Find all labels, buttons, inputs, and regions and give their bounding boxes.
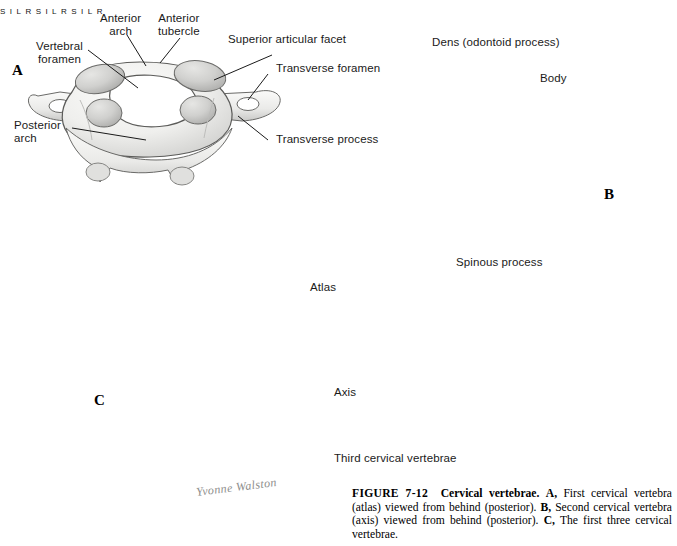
label-spinous-process: Spinous process bbox=[456, 256, 543, 269]
figure-number: FIGURE 7-12 bbox=[352, 487, 428, 500]
label-anterior-tubercle: Anteriortubercle bbox=[158, 12, 200, 37]
label-vertebral-foramen: Vertebralforamen bbox=[36, 40, 83, 65]
label-anterior-arch: Anteriorarch bbox=[100, 12, 141, 37]
label-transverse-foramen: Transverse foramen bbox=[276, 62, 380, 75]
label-anterior-arch-line2: arch bbox=[109, 25, 132, 37]
label-posterior-arch-line2: arch bbox=[14, 132, 37, 144]
caption-marker-a: A, bbox=[546, 487, 557, 500]
label-anterior-arch-line1: Anterior bbox=[100, 12, 141, 24]
label-posterior-arch: Posteriorarch bbox=[14, 119, 61, 144]
label-third-cervical-vertebrae: Third cervical vertebrae bbox=[334, 452, 457, 465]
label-body: Body bbox=[540, 72, 567, 85]
label-vertebral-foramen-line2: foramen bbox=[38, 53, 81, 65]
label-dens: Dens (odontoid process) bbox=[432, 36, 560, 49]
label-atlas: Atlas bbox=[310, 281, 336, 294]
caption-marker-c: C, bbox=[544, 514, 555, 527]
panel-letter-c: C bbox=[94, 392, 105, 409]
panel-letter-b: B bbox=[604, 186, 614, 203]
label-superior-articular-facet: Superior articular facet bbox=[228, 33, 346, 46]
caption-marker-b: B, bbox=[541, 501, 552, 514]
label-transverse-process: Transverse process bbox=[276, 133, 378, 146]
label-vertebral-foramen-line1: Vertebral bbox=[36, 40, 83, 52]
label-anterior-tubercle-line1: Anterior bbox=[158, 12, 199, 24]
panel-a-atlas-illustration bbox=[28, 57, 280, 185]
figure-caption: FIGURE 7-12 Cervical vertebrae. A, First… bbox=[352, 487, 672, 541]
figure-title: Cervical vertebrae. bbox=[441, 487, 540, 500]
panel-letter-a: A bbox=[12, 62, 23, 79]
label-anterior-tubercle-line2: tubercle bbox=[158, 25, 200, 37]
label-posterior-arch-line1: Posterior bbox=[14, 119, 61, 131]
label-axis: Axis bbox=[334, 386, 356, 399]
